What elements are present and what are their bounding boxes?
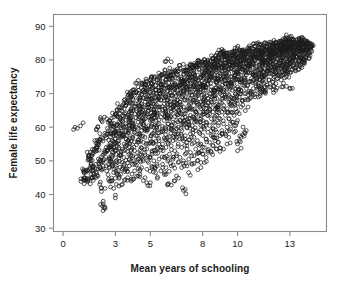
y-tick-label: 80 <box>35 54 46 65</box>
y-tick-label: 70 <box>35 88 46 99</box>
y-tick-label: 50 <box>35 155 46 166</box>
y-tick-label: 90 <box>35 21 46 32</box>
x-tick-label: 3 <box>113 238 118 249</box>
y-axis-title: Female life expectancy <box>8 67 19 178</box>
x-tick-label: 10 <box>232 238 243 249</box>
scatter-plot-figure: 03581013 30405060708090 Mean years of sc… <box>0 0 343 284</box>
x-tick-label: 0 <box>60 238 65 249</box>
x-axis-title: Mean years of schooling <box>131 263 250 274</box>
chart-canvas: 03581013 30405060708090 Mean years of sc… <box>0 0 343 284</box>
x-tick-label: 13 <box>285 238 296 249</box>
x-tick-label: 8 <box>200 238 205 249</box>
x-tick-label: 5 <box>148 238 153 249</box>
y-tick-label: 30 <box>35 223 46 234</box>
y-tick-label: 60 <box>35 122 46 133</box>
y-tick-label: 40 <box>35 189 46 200</box>
